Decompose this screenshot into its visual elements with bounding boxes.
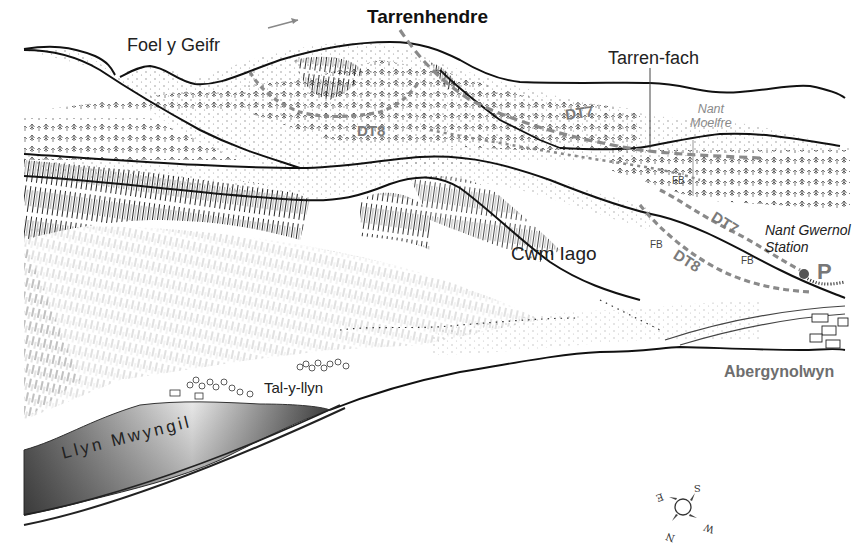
label-footbridge-3: FB (741, 256, 754, 266)
label-station-line1: Nant Gwernol (765, 222, 851, 239)
label-nant-moelfre: Nant Moelfre (690, 102, 732, 131)
compass-label-s: S (694, 483, 701, 493)
label-cwm-iago: Cwm Iago (511, 244, 597, 263)
label-footbridge-1: FB (672, 176, 685, 186)
direction-arrow (268, 18, 298, 28)
label-abergynolwyn: Abergynolwyn (724, 364, 834, 380)
label-nant-gwernol-station: Nant Gwernol Station (765, 222, 851, 256)
label-nant-moelfre-line1: Nant (690, 102, 732, 116)
parking-marker: P (817, 261, 832, 283)
station-dot (799, 269, 809, 279)
label-footbridge-2: FB (650, 240, 663, 250)
label-route-dt7-upper: DT7 (564, 103, 594, 122)
illustrated-route-map (0, 0, 855, 556)
map-title: Tarrenhendre (367, 7, 488, 26)
label-station-line2: Station (765, 239, 851, 256)
compass-rose (669, 493, 697, 521)
label-nant-moelfre-line2: Moelfre (690, 116, 732, 130)
label-route-dt8-upper: DT8 (357, 123, 385, 138)
label-tarren-fach: Tarren-fach (608, 49, 699, 67)
label-foel-y-geifr: Foel y Geifr (127, 36, 220, 54)
label-tal-y-llyn: Tal-y-llyn (264, 380, 323, 395)
